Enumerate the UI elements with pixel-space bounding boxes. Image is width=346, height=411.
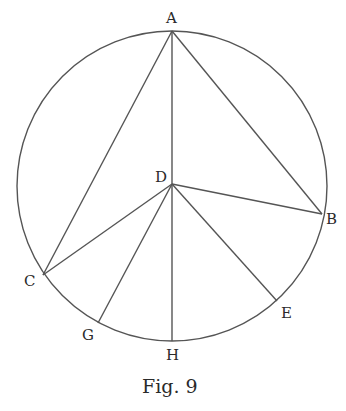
label-G: G (82, 326, 94, 344)
figure-caption: Fig. 9 (142, 375, 198, 397)
geometry-figure: A B C D E G H Fig. 9 (0, 0, 346, 411)
label-C: C (24, 272, 35, 290)
label-E: E (281, 304, 292, 322)
segment-DG (98, 184, 172, 323)
label-A: A (165, 9, 177, 27)
label-H: H (166, 346, 179, 364)
segment-AB (172, 31, 322, 214)
label-B: B (326, 210, 337, 228)
segment-DC (43, 184, 172, 275)
label-D: D (155, 168, 167, 186)
segment-AC (43, 31, 172, 275)
